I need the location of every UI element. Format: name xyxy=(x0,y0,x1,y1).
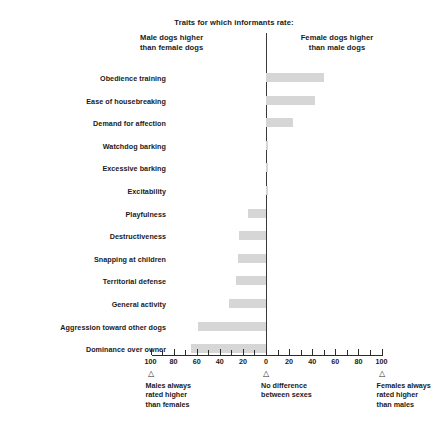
x-axis-tick xyxy=(243,349,244,355)
bar-row-label: Destructiveness xyxy=(0,232,166,241)
bar-row: Obedience training xyxy=(0,71,426,94)
x-axis-tick xyxy=(347,350,348,355)
bar-row: Excessive barking xyxy=(0,161,426,184)
bar-row-label: Snapping at children xyxy=(0,255,166,264)
bar-row: General activity xyxy=(0,297,426,320)
bar xyxy=(266,141,268,150)
bar-row-label: Obedience training xyxy=(0,74,166,83)
x-axis-tick xyxy=(162,350,163,355)
bar-row: Demand for affection xyxy=(0,116,426,139)
x-axis-tick xyxy=(231,350,232,355)
x-axis-tick xyxy=(278,350,279,355)
x-axis-tick xyxy=(174,349,175,355)
axis-annotation-line: No difference xyxy=(261,381,347,390)
triangle-marker-icon: △ xyxy=(260,370,272,378)
axis-annotation-line: than females xyxy=(146,400,232,409)
bar-row: Territorial defense xyxy=(0,274,426,297)
x-axis-tick xyxy=(301,350,302,355)
x-axis-tick-label: 100 xyxy=(367,357,397,366)
x-axis-tick xyxy=(254,350,255,355)
x-axis-tick xyxy=(324,350,325,355)
x-axis-line xyxy=(152,355,383,356)
bar xyxy=(248,209,266,218)
axis-annotation-text: Females alwaysrated higherthan males xyxy=(377,381,435,409)
bar-row: Ease of housebreaking xyxy=(0,94,426,117)
x-axis-tick xyxy=(358,349,359,355)
bar-row-label: Watchdog barking xyxy=(0,142,166,151)
bar xyxy=(266,118,293,127)
bar-row: Playfulness xyxy=(0,207,426,230)
bar-row-label: Demand for affection xyxy=(0,119,166,128)
bar-row: Watchdog barking xyxy=(0,139,426,162)
bar-row-label: Ease of housebreaking xyxy=(0,97,166,106)
bar-row-label: Dominance over owner xyxy=(0,345,166,354)
axis-annotation-line: Females always xyxy=(377,381,435,390)
bar xyxy=(266,73,324,82)
axis-annotation-line: than males xyxy=(377,400,435,409)
axis-annotation-text: Males alwaysrated higherthan females xyxy=(146,381,232,409)
axis-annotation-line: between sexes xyxy=(261,390,347,399)
x-axis-tick xyxy=(220,349,221,355)
bar xyxy=(239,231,266,240)
bar-row: Excitability xyxy=(0,184,426,207)
x-axis-tick xyxy=(197,349,198,355)
bar xyxy=(266,163,268,172)
axis-annotation-line: rated higher xyxy=(146,390,232,399)
x-axis-tick xyxy=(185,350,186,355)
bar-row-label: Territorial defense xyxy=(0,277,166,286)
axis-annotation-line: rated higher xyxy=(377,390,435,399)
bar-row: Aggression toward other dogs xyxy=(0,320,426,343)
bar-row-label: Aggression toward other dogs xyxy=(0,323,166,332)
x-axis-tick xyxy=(151,349,152,355)
x-axis-tick xyxy=(266,349,267,355)
bar xyxy=(229,299,266,308)
x-axis-tick xyxy=(208,350,209,355)
bar-row: Snapping at children xyxy=(0,252,426,275)
x-axis-tick xyxy=(335,349,336,355)
bar-row-label: Playfulness xyxy=(0,210,166,219)
bar-row: Destructiveness xyxy=(0,229,426,252)
bar-row-label: Excitability xyxy=(0,187,166,196)
axis-annotation-text: No differencebetween sexes xyxy=(261,381,347,400)
bar-row-label: Excessive barking xyxy=(0,164,166,173)
bar-row-label: General activity xyxy=(0,300,166,309)
x-axis-tick xyxy=(382,349,383,355)
bar xyxy=(266,186,268,195)
bar xyxy=(266,96,315,105)
bar xyxy=(236,276,266,285)
bar xyxy=(198,322,266,331)
triangle-marker-icon: △ xyxy=(145,370,157,378)
axis-annotation-line: Males always xyxy=(146,381,232,390)
x-axis-tick xyxy=(289,349,290,355)
triangle-marker-icon: △ xyxy=(376,370,388,378)
bar xyxy=(238,254,266,263)
x-axis-tick xyxy=(370,350,371,355)
x-axis-tick xyxy=(312,349,313,355)
